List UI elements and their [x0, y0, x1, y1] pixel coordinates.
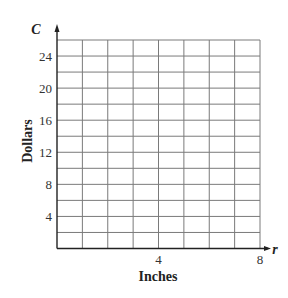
y-tick-label: 8 [46, 177, 53, 192]
y-axis-arrow-icon [55, 24, 60, 32]
chart: 4812162024 48 C r Inches Dollars [0, 0, 288, 298]
y-tick-labels: 4812162024 [39, 49, 53, 224]
y-axis-title: Dollars [20, 119, 35, 163]
axes [55, 24, 272, 251]
grid-lines [57, 40, 260, 249]
y-tick-label: 12 [39, 145, 52, 160]
y-tick-label: 16 [39, 113, 53, 128]
x-tick-label: 8 [257, 252, 264, 267]
y-tick-label: 4 [46, 209, 53, 224]
x-tick-label: 4 [155, 252, 162, 267]
y-tick-label: 24 [39, 49, 53, 64]
x-axis-title: Inches [139, 269, 178, 284]
x-variable-label: r [272, 242, 278, 257]
x-tick-labels: 48 [155, 252, 263, 267]
y-variable-label: C [31, 22, 41, 37]
y-tick-label: 20 [39, 81, 52, 96]
x-axis-arrow-icon [264, 246, 271, 251]
